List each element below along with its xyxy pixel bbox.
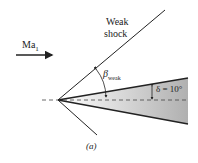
mach-subscript: 1 — [35, 45, 39, 53]
oblique-shock-diagram — [0, 0, 198, 163]
mach-label: Ma1 — [22, 40, 39, 53]
caption: (a) — [86, 142, 97, 151]
beta-label: βweak — [103, 69, 121, 81]
shock-label-1: Weak — [106, 17, 129, 27]
mach-text: Ma — [22, 39, 35, 50]
shock-label-2: shock — [104, 29, 127, 39]
beta-subscript: weak — [108, 75, 121, 81]
delta-label: δ = 10° — [156, 85, 182, 94]
